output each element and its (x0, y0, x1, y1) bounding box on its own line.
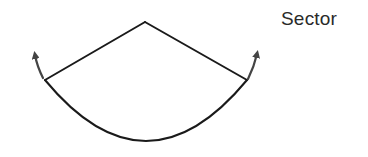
left-radius-line (45, 22, 145, 80)
right-radius-line (145, 22, 247, 80)
sector-arc (45, 80, 247, 141)
sector-diagram: Sector (0, 0, 368, 157)
left-arrow-icon (35, 55, 43, 78)
diagram-title: Sector (281, 8, 337, 30)
right-arrow-icon (248, 54, 257, 79)
